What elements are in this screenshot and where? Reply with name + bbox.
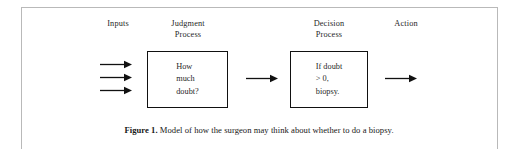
figure-caption: Figure 1. Model of how the surgeon may t… [33, 124, 485, 136]
column-header-inputs: Inputs [88, 19, 148, 30]
input-arrow-1 [100, 60, 132, 69]
flow-diagram: Inputs Judgment Process Decision Process… [0, 0, 517, 115]
decision-process-box-text: If doubt > 0, biopsy. [291, 52, 367, 107]
judgment-process-text-lines: How much doubt? [176, 61, 199, 98]
column-header-judgment-process: Judgment Process [153, 19, 223, 40]
column-header-action: Action [376, 19, 436, 30]
figure-caption-label: Figure 1. [124, 125, 157, 135]
judgment-to-decision-arrow [246, 74, 278, 83]
input-arrow-2 [100, 73, 132, 82]
input-arrow-3 [100, 86, 132, 95]
decision-process-text-lines: If doubt > 0, biopsy. [316, 61, 343, 98]
judgment-process-box-text: How much doubt? [148, 52, 227, 107]
figure-caption-text: Model of how the surgeon may think about… [158, 125, 394, 135]
column-header-decision-process: Decision Process [294, 19, 364, 40]
decision-to-action-arrow [385, 74, 417, 83]
decision-process-box: If doubt > 0, biopsy. [290, 51, 368, 108]
judgment-process-box: How much doubt? [147, 51, 228, 108]
figure-container: Inputs Judgment Process Decision Process… [0, 0, 517, 149]
